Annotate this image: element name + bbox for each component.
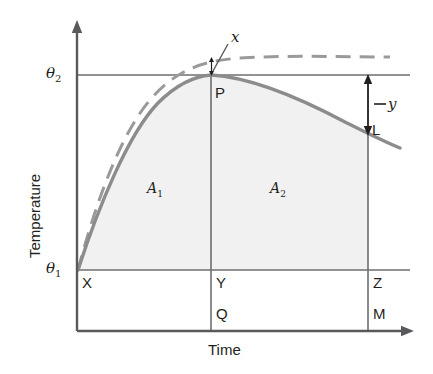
theta1-glyph: θ [46,259,55,277]
point-label-p: P [215,84,225,101]
x-axis-arrowhead [401,326,414,336]
point-label-l: L [372,121,380,138]
y-axis-arrowhead [72,20,82,33]
theta2-tick-label: θ2 [46,64,61,84]
point-label-z: Z [373,274,382,291]
a2-subscript: 2 [280,189,286,199]
x-axis-title: Time [208,341,241,358]
annotation-label-y: y [388,95,396,113]
theta2-glyph: θ [46,64,55,82]
y-axis-title: Temperature [26,174,43,258]
a1-glyph: A [147,180,157,196]
point-label-q: Q [216,305,228,322]
a1-subscript: 1 [157,189,163,199]
point-label-x: X [82,274,92,291]
annotation-label-x: x [231,28,239,46]
area-a1-shading [78,75,211,270]
region-label-a1: A1 [147,180,163,199]
point-label-m: M [373,305,386,322]
theta1-subscript: 1 [55,268,61,279]
x-gap-arrowhead-up [209,57,214,62]
x-leader-line [213,44,228,71]
theta2-subscript: 2 [55,73,61,84]
point-label-y: Y [216,274,226,291]
region-label-a2: A2 [270,180,286,199]
theta1-tick-label: θ1 [46,259,61,279]
area-a2-shading [211,75,368,270]
a2-glyph: A [270,180,280,196]
